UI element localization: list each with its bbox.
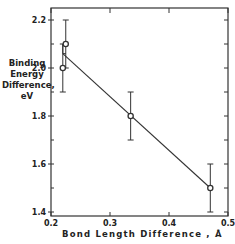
y-axis-label: Binding Energy Difference, eV bbox=[2, 58, 52, 102]
data-point bbox=[128, 113, 133, 118]
y-tick-label: 2.2 bbox=[32, 16, 46, 25]
x-tick-label: 0.2 bbox=[44, 219, 58, 228]
chart-canvas: 1.41.61.82.02.20.20.30.40.5 bbox=[0, 0, 235, 244]
x-tick-label: 0.5 bbox=[221, 219, 235, 228]
data-point bbox=[63, 41, 68, 46]
y-tick-label: 1.6 bbox=[32, 160, 47, 169]
data-points bbox=[60, 41, 213, 190]
y-axis-label-line: eV bbox=[2, 91, 52, 102]
plot-border bbox=[51, 8, 228, 216]
y-axis-label-line: Difference, bbox=[2, 80, 52, 91]
data-point bbox=[60, 65, 65, 70]
y-tick-label: 1.8 bbox=[32, 112, 47, 121]
y-axis-label-line: Energy bbox=[2, 69, 52, 80]
regression-line bbox=[63, 54, 211, 188]
y-axis-label-line: Binding bbox=[2, 58, 52, 69]
x-tick-label: 0.3 bbox=[103, 219, 117, 228]
error-bars bbox=[60, 20, 214, 212]
axis-ticks bbox=[48, 8, 228, 216]
plot-frame bbox=[51, 8, 228, 216]
x-axis-label: Bond Length Difference , Å bbox=[62, 229, 223, 239]
fit-line bbox=[63, 44, 211, 188]
x-tick-label: 0.4 bbox=[162, 219, 177, 228]
data-point bbox=[208, 185, 213, 190]
y-tick-label: 1.4 bbox=[32, 208, 47, 217]
